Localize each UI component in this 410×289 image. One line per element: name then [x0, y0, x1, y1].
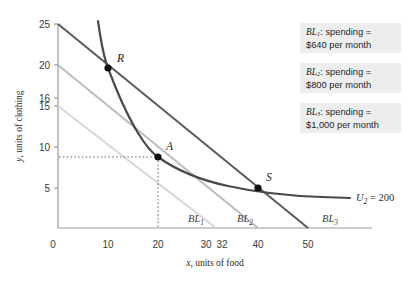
legend-bl2-name: BL: [306, 67, 317, 77]
data-point-s: [254, 184, 261, 191]
y-tick-label: 20: [39, 60, 51, 71]
y-tick-labels: 25 20 16 15 10 5: [39, 19, 51, 194]
point-label-s: S: [266, 171, 272, 183]
bl3-plot-label: BL3: [322, 213, 338, 227]
budget-line-bl3: [58, 24, 308, 228]
y-tick-label: 10: [39, 142, 51, 153]
y-tick-label: 5: [44, 183, 50, 194]
y-tick-label: 15: [39, 101, 51, 112]
y-tick-label: 25: [39, 19, 51, 30]
bl2-plot-label: BL2: [237, 213, 253, 227]
legend-bl1-rest: : spending =: [320, 27, 371, 37]
x-tick-label: 32: [216, 239, 228, 250]
x-tick-label: 50: [302, 239, 314, 250]
legend-entry-bl2: BL2: spending = $800 per month: [300, 63, 401, 93]
legend-bl3-line1: BL3: spending =: [306, 107, 395, 120]
legend-bl3-rest: : spending =: [320, 107, 371, 117]
data-point-r: [104, 64, 111, 71]
legend-bl3-name: BL: [306, 107, 317, 117]
legend-entry-bl3: BL3: spending = $1,000 per month: [300, 103, 401, 133]
x-tick-label: 10: [102, 239, 114, 250]
point-label-a: A: [165, 140, 174, 152]
x-tick-label: 40: [252, 239, 264, 250]
x-axis-title: x, units of food: [185, 258, 244, 268]
point-label-r: R: [116, 52, 124, 64]
legend-bl2-line2: $800 per month: [306, 80, 395, 92]
legend-bl1-name: BL: [306, 27, 317, 37]
x-tick-labels: 0 10 20 30 32 40 50: [50, 239, 314, 250]
legend-bl1-line2: $640 per month: [306, 40, 395, 52]
legend-bl2-rest: : spending =: [320, 67, 371, 77]
x-tick-label: 20: [152, 239, 164, 250]
y-axis-title: y, units of clothing: [14, 90, 24, 162]
x-tick-label: 30: [200, 239, 212, 250]
x-tick-label: 0: [50, 239, 56, 250]
legend-entry-bl1: BL1: spending = $640 per month: [300, 23, 401, 53]
legend-bl3-line2: $1,000 per month: [306, 120, 395, 132]
bl1-plot-label: BL1: [188, 213, 204, 227]
legend-bl1-line1: BL1: spending =: [306, 27, 395, 40]
data-point-a: [154, 153, 161, 160]
legend-bl2-line1: BL2: spending =: [306, 67, 395, 80]
budget-line-bl1: [58, 106, 216, 228]
u2-annotation: U2 = 200: [356, 192, 394, 206]
